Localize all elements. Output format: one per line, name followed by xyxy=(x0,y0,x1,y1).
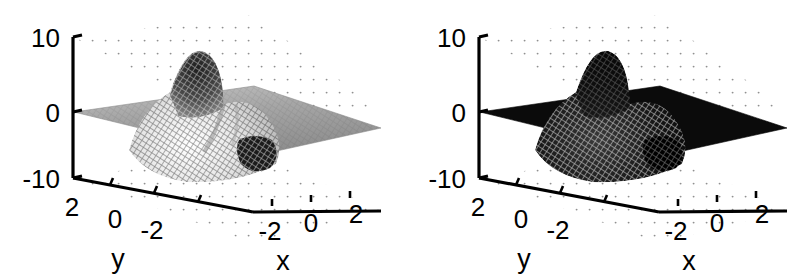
y-axis-label: y xyxy=(111,244,125,274)
y-axis-label: y xyxy=(517,244,531,274)
y-tick-far: 2 xyxy=(471,192,485,222)
z-tick-top: 10 xyxy=(31,23,60,53)
x-tick-mid: 0 xyxy=(710,208,724,238)
x-axis-label: x xyxy=(682,246,696,276)
y-tick-near: -2 xyxy=(140,215,163,245)
figure-canvas: 10 0 -10 2 0 -2 -2 0 2 y x xyxy=(0,0,811,279)
left-plot-svg: 10 0 -10 2 0 -2 -2 0 2 y x xyxy=(0,0,405,279)
y-tick-mid: 0 xyxy=(108,204,122,234)
surface-plot-left: 10 0 -10 2 0 -2 -2 0 2 y x xyxy=(0,0,405,279)
x-tick-near: -2 xyxy=(258,216,281,246)
x-axis-label: x xyxy=(276,246,290,276)
surface-plot-right: 10 0 -10 2 0 -2 -2 0 2 y x xyxy=(406,0,811,279)
z-tick-bottom: -10 xyxy=(428,164,466,194)
x-tick-far: 2 xyxy=(755,199,769,229)
z-tick-bottom: -10 xyxy=(22,164,60,194)
y-tick-far: 2 xyxy=(65,192,79,222)
z-tick-top: 10 xyxy=(437,23,466,53)
right-plot-svg: 10 0 -10 2 0 -2 -2 0 2 y x xyxy=(406,0,811,279)
y-tick-mid: 0 xyxy=(514,204,528,234)
x-tick-near: -2 xyxy=(664,216,687,246)
z-tick-mid: 0 xyxy=(46,98,60,128)
x-tick-far: 2 xyxy=(349,199,363,229)
y-tick-near: -2 xyxy=(546,215,569,245)
x-tick-mid: 0 xyxy=(304,208,318,238)
z-axis xyxy=(479,35,488,178)
z-tick-mid: 0 xyxy=(452,98,466,128)
